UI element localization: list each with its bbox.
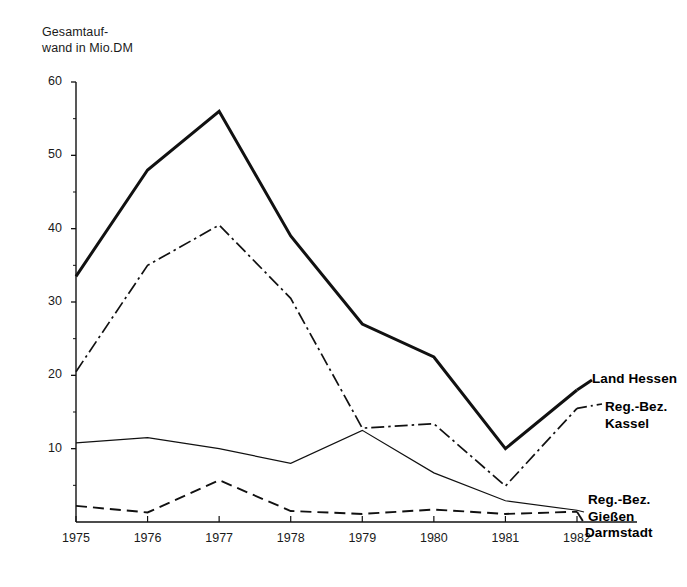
- series-line-3: [76, 480, 577, 514]
- chart-axes: [71, 82, 637, 522]
- series-label-darmstadt: Darmstadt: [585, 525, 653, 542]
- x-tick-label: 1976: [125, 531, 171, 545]
- line-chart-plot: [0, 0, 687, 587]
- x-tick-label: 1978: [268, 531, 314, 545]
- chart-figure: Gesamtauf- wand in Mio.DM 605040302010 1…: [0, 0, 687, 587]
- y-tick-label: 60: [32, 74, 62, 88]
- y-tick-label: 50: [32, 147, 62, 161]
- x-tick-label: 1975: [53, 531, 99, 545]
- x-tick-label: 1981: [482, 531, 528, 545]
- series-leader-1: [577, 404, 602, 408]
- series-label-giessen: Reg.-Bez. Gießen: [588, 492, 650, 525]
- chart-series-lines: [76, 111, 602, 523]
- y-axis-caption: Gesamtauf- wand in Mio.DM: [42, 24, 133, 56]
- x-tick-label: 1977: [196, 531, 242, 545]
- series-leader-0: [577, 380, 592, 390]
- x-tick-label: 1980: [411, 531, 457, 545]
- series-label-land-hessen: Land Hessen: [592, 371, 677, 388]
- y-tick-label: 30: [32, 294, 62, 308]
- series-label-kassel: Reg.-Bez. Kassel: [605, 399, 667, 432]
- y-tick-label: 40: [32, 221, 62, 235]
- y-tick-label: 10: [32, 441, 62, 455]
- x-tick-label: 1979: [339, 531, 385, 545]
- y-tick-label: 20: [32, 367, 62, 381]
- series-line-0: [76, 111, 577, 448]
